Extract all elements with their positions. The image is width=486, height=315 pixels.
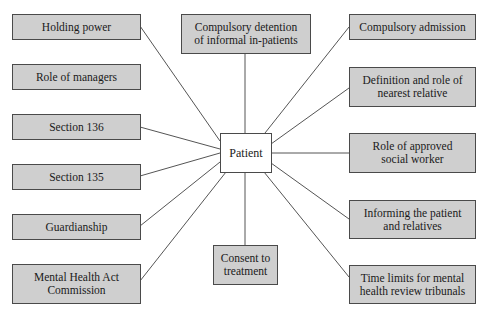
node-compulsory-admission: Compulsory admission — [349, 14, 476, 40]
node-consent-to-treatment: Consent to treatment — [213, 245, 278, 285]
node-role-of-managers: Role of managers — [12, 64, 141, 90]
node-holding-power: Holding power — [12, 14, 141, 40]
node-compulsory-detention: Compulsory detention of informal in-pati… — [181, 14, 311, 54]
patient-node: Patient — [220, 133, 272, 173]
link-section-136 — [140, 127, 220, 149]
link-guardianship — [140, 162, 220, 226]
node-guardianship: Guardianship — [12, 214, 141, 240]
node-section-136: Section 136 — [12, 114, 141, 140]
node-approved-social-worker: Role of approved social worker — [349, 133, 476, 173]
link-nearest-relative — [271, 88, 349, 144]
node-time-limits: Time limits for mental health review tri… — [349, 265, 476, 304]
node-informing-patient: Informing the patient and relatives — [349, 200, 476, 239]
link-informing-patient — [271, 163, 349, 219]
link-section-135 — [140, 153, 220, 176]
node-nearest-relative: Definition and role of nearest relative — [349, 67, 476, 107]
node-section-135: Section 135 — [12, 164, 141, 190]
node-mha-commission: Mental Health Act Commission — [12, 264, 141, 304]
